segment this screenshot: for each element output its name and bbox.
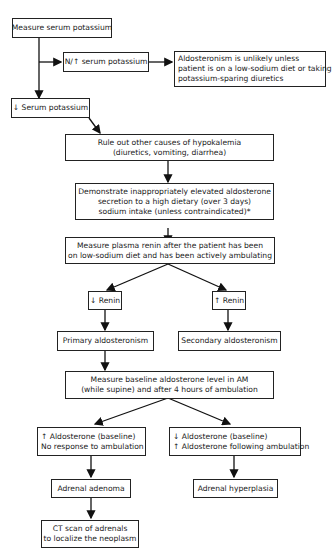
node-text: ↑ Aldosterone (baseline) bbox=[41, 432, 135, 442]
node-low-aldosterone: ↓ Aldosterone (baseline) ↑ Aldosterone f… bbox=[169, 427, 301, 456]
node-text: to localize the neoplasm bbox=[44, 534, 137, 544]
node-text: secretion to a high dietary (over 3 days… bbox=[98, 197, 251, 207]
node-text: sodium intake (unless contraindicated)* bbox=[99, 207, 251, 217]
node-ct-scan: CT scan of adrenals to localize the neop… bbox=[41, 520, 139, 548]
node-text: potassium-sparing diuretics bbox=[178, 74, 283, 84]
node-secondary-aldosteronism: Secondary aldosteronism bbox=[178, 331, 281, 351]
node-text: ↓ Renin bbox=[90, 296, 120, 306]
node-text: Demonstrate inappropriately elevated ald… bbox=[78, 187, 271, 197]
node-adrenal-adenoma: Adrenal adenoma bbox=[51, 479, 131, 498]
node-text: Measure baseline aldosterone level in AM bbox=[91, 375, 249, 385]
node-text: (while supine) and after 4 hours of ambu… bbox=[81, 385, 258, 395]
node-text: patient is on a low-sodium diet or takin… bbox=[178, 64, 332, 74]
node-rule-out-causes: Rule out other causes of hypokalemia (di… bbox=[65, 134, 274, 161]
node-text: ↓ Serum potassium bbox=[13, 103, 88, 113]
node-measure-plasma-renin: Measure plasma renin after the patient h… bbox=[65, 237, 275, 264]
node-text: No response to ambulation bbox=[41, 442, 144, 452]
node-text: Adrenal hyperplasia bbox=[198, 484, 274, 494]
node-text: N/↑ serum potassium bbox=[65, 57, 148, 67]
node-primary-aldosteronism: Primary aldosteronism bbox=[57, 331, 154, 351]
node-text: on low-sodium diet and has been actively… bbox=[68, 251, 272, 261]
node-text: CT scan of adrenals bbox=[53, 524, 128, 534]
node-low-potassium: ↓ Serum potassium bbox=[11, 98, 90, 118]
node-text: Measure serum potassium bbox=[12, 23, 112, 33]
node-aldosteronism-unlikely: Aldosteronism is unlikely unless patient… bbox=[174, 51, 326, 87]
node-text: (diuretics, vomiting, diarrhea) bbox=[113, 148, 226, 158]
node-text: Aldosteronism is unlikely unless bbox=[178, 54, 299, 64]
node-text: Measure plasma renin after the patient h… bbox=[77, 241, 263, 251]
node-text: ↑ Aldosterone following ambulation bbox=[173, 442, 309, 452]
node-measure-serum-potassium: Measure serum potassium bbox=[12, 18, 112, 38]
node-adrenal-hyperplasia: Adrenal hyperplasia bbox=[193, 479, 278, 498]
node-demonstrate-elevated-aldosterone: Demonstrate inappropriately elevated ald… bbox=[75, 183, 274, 220]
node-high-renin: ↑ Renin bbox=[212, 291, 246, 310]
node-text: ↑ Renin bbox=[214, 296, 244, 306]
node-text: ↓ Aldosterone (baseline) bbox=[173, 432, 267, 442]
node-text: Adrenal adenoma bbox=[57, 484, 124, 494]
node-text: Rule out other causes of hypokalemia bbox=[98, 138, 241, 148]
node-measure-baseline-aldosterone: Measure baseline aldosterone level in AM… bbox=[65, 371, 274, 399]
node-text: Secondary aldosteronism bbox=[181, 336, 277, 346]
node-high-aldosterone: ↑ Aldosterone (baseline) No response to … bbox=[37, 427, 146, 456]
node-normal-potassium: N/↑ serum potassium bbox=[63, 52, 149, 72]
node-low-renin: ↓ Renin bbox=[88, 291, 122, 310]
node-text: Primary aldosteronism bbox=[63, 336, 148, 346]
